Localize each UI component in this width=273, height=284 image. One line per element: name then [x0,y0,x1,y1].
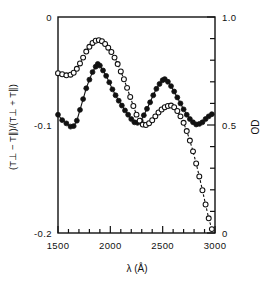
data-point-open-circle [84,49,89,54]
x-tick-label: 1500 [47,240,70,251]
data-point-filled-circle [74,118,79,123]
data-point-open-circle [206,216,211,221]
data-point-open-circle [112,55,117,60]
y-tick-label-right: 0 [222,228,228,239]
data-point-open-circle [200,188,205,193]
data-point-open-circle [118,69,123,74]
series-linear-dichroism [56,62,215,130]
data-point-filled-circle [119,103,124,108]
figure-panel: 1500200025003000 -0.2-0.10 1.00.50 λ (Å)… [0,0,273,284]
data-point-filled-circle [110,87,115,92]
data-point-open-circle [203,202,208,207]
data-point-open-circle [209,227,214,232]
data-point-filled-circle [107,80,112,85]
spectrum-chart: 1500200025003000 -0.2-0.10 1.00.50 λ (Å)… [0,0,273,284]
data-point-open-circle [197,174,202,179]
data-point-filled-circle [78,107,83,112]
x-tick-labels: 1500200025003000 [47,240,227,251]
data-point-open-circle [121,77,126,82]
data-point-open-circle [187,138,192,143]
data-point-filled-circle [81,97,86,102]
y-tick-labels-right: 1.00.50 [222,12,236,239]
data-point-filled-circle [154,86,159,91]
data-point-open-circle [191,149,196,154]
data-series-layer [56,38,215,232]
y-tick-label-left: -0.2 [34,228,52,239]
data-point-filled-circle [151,93,156,98]
data-point-filled-circle [113,93,118,98]
data-point-filled-circle [181,107,186,112]
x-tick-label: 2000 [99,240,122,251]
data-point-filled-circle [123,108,128,113]
x-tick-label: 2500 [151,240,174,251]
data-point-open-circle [78,61,83,66]
data-point-open-circle [134,112,139,117]
data-point-filled-circle [90,70,95,75]
data-point-open-circle [194,161,199,166]
series-optical-density [56,38,215,232]
data-point-filled-circle [71,124,76,129]
data-point-filled-circle [209,112,214,117]
data-point-filled-circle [169,84,174,89]
data-point-filled-circle [56,112,61,117]
data-point-filled-circle [104,73,109,78]
data-point-open-circle [184,129,189,134]
data-point-open-circle [175,109,180,114]
x-axis-title: λ (Å) [126,262,147,274]
y-tick-label-right: 0.5 [222,120,236,131]
y-tick-labels-left: -0.2-0.10 [34,12,52,239]
data-point-filled-circle [60,118,65,123]
data-point-filled-circle [165,79,170,84]
x-tick-label: 3000 [204,240,227,251]
data-point-open-circle [74,66,79,71]
y-tick-label-left: 0 [46,12,52,23]
data-point-filled-circle [184,112,189,117]
data-point-filled-circle [172,89,177,94]
y-axis-title-right: OD [250,120,261,135]
data-point-open-circle [125,85,130,90]
data-point-filled-circle [175,95,180,100]
data-point-filled-circle [145,106,150,111]
data-point-open-circle [81,55,86,60]
data-point-open-circle [128,94,133,99]
data-point-open-circle [109,50,114,55]
data-point-filled-circle [141,113,146,118]
data-point-open-circle [131,104,136,109]
data-point-filled-circle [101,68,106,73]
data-point-filled-circle [126,112,131,117]
data-point-filled-circle [87,77,92,82]
series-line-optical-density [58,40,212,229]
y-tick-label-right: 1.0 [222,12,236,23]
data-point-filled-circle [97,63,102,68]
data-point-open-circle [115,62,120,67]
data-point-open-circle [178,114,183,119]
data-point-filled-circle [178,101,183,106]
data-point-open-circle [181,120,186,125]
y-tick-label-left: -0.1 [34,120,52,131]
data-point-filled-circle [64,121,69,126]
data-point-filled-circle [148,100,153,105]
y-axis-title-left: (T⊥ − T∥)/(T⊥ + T∥) [7,84,19,170]
data-point-filled-circle [116,98,121,103]
data-point-filled-circle [84,86,89,91]
